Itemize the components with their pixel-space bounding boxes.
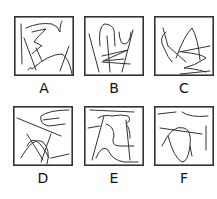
- option-b[interactable]: B: [84, 16, 144, 96]
- option-c[interactable]: C: [154, 16, 214, 96]
- line-figure-f: [154, 106, 214, 166]
- line-figure-e: [84, 106, 144, 166]
- option-f[interactable]: F: [154, 106, 214, 186]
- line-figure-c: [154, 16, 214, 76]
- line-figure-a: [14, 16, 74, 76]
- line-figure-b: [84, 16, 144, 76]
- option-label: D: [13, 170, 73, 186]
- option-d[interactable]: D: [13, 106, 73, 186]
- option-label: C: [154, 80, 214, 96]
- option-e[interactable]: E: [84, 106, 144, 186]
- option-label: E: [84, 170, 144, 186]
- line-figure-d: [13, 106, 73, 166]
- option-a[interactable]: A: [14, 16, 74, 96]
- option-label: F: [154, 170, 214, 186]
- option-label: A: [14, 80, 74, 96]
- option-label: B: [84, 80, 144, 96]
